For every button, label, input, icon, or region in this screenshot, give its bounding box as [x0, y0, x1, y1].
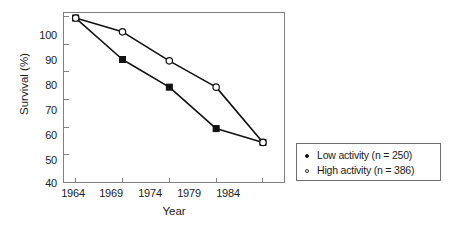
legend: Low activity (n = 250) High activity (n … [296, 143, 441, 181]
y-tick-label-50: 50 [29, 155, 57, 166]
legend-item-low-activity: Low activity (n = 250) [303, 148, 440, 163]
filled-dot-icon [303, 150, 314, 161]
y-tick-label-100: 100 [29, 30, 57, 41]
figure-container: Survival (%) Year 100 90 80 70 60 50 40 … [0, 0, 452, 234]
x-axis-title: Year [63, 205, 285, 217]
x-tick-label-1984: 1984 [208, 188, 248, 199]
y-tick-label-70: 70 [29, 105, 57, 116]
legend-label-high-activity: High activity (n = 386) [317, 165, 414, 176]
open-dot-icon [303, 165, 314, 176]
y-tick-label-60: 60 [29, 130, 57, 141]
x-tick-label-1969: 1969 [91, 188, 131, 199]
legend-item-high-activity: High activity (n = 386) [303, 163, 440, 178]
y-tick-label-80: 80 [29, 80, 57, 91]
x-tick-label-1974: 1974 [130, 188, 170, 199]
x-tick-label-1979: 1979 [169, 188, 209, 199]
plot-frame [63, 12, 285, 183]
x-tick-label-1964: 1964 [53, 188, 93, 199]
y-tick-label-90: 90 [29, 55, 57, 66]
legend-label-low-activity: Low activity (n = 250) [317, 150, 412, 161]
